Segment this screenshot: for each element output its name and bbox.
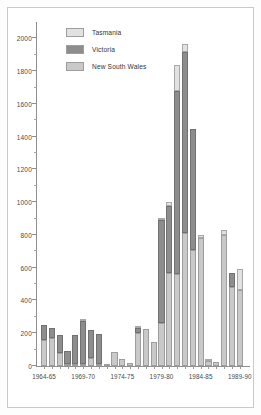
x-tick-label: 1989-90 <box>228 373 252 380</box>
x-tick <box>208 366 209 369</box>
bar-stack[interactable] <box>104 364 110 366</box>
bar-segment-victoria <box>64 351 70 364</box>
bar-segment-victoria <box>57 335 63 353</box>
y-tick-label: 600 <box>21 264 32 271</box>
x-tick <box>130 366 131 369</box>
bar-stack[interactable] <box>57 335 63 366</box>
bar-stack[interactable] <box>111 352 117 366</box>
x-tick-label: 1979-80 <box>150 373 174 380</box>
y-tick-label: 0 <box>28 363 32 370</box>
bar-segment-victoria <box>229 273 235 288</box>
bar-segment-new-south-wales <box>166 273 172 366</box>
x-tick <box>232 366 233 369</box>
bar-segment-new-south-wales <box>111 352 117 366</box>
bar-segment-victoria <box>72 335 78 364</box>
bar-stack[interactable] <box>143 329 149 366</box>
bar-segment-new-south-wales <box>174 274 180 366</box>
bar-segment-new-south-wales <box>41 340 47 366</box>
bar-stack[interactable] <box>127 363 133 366</box>
bar-stack[interactable] <box>64 351 70 366</box>
chart-figure: 0200400600800100012001400160018002000 19… <box>0 0 261 415</box>
bar-stack[interactable] <box>221 230 227 366</box>
bar-segment-new-south-wales <box>57 353 63 366</box>
bar-segment-new-south-wales <box>64 364 70 366</box>
bar-stack[interactable] <box>119 359 125 366</box>
bar-segment-new-south-wales <box>119 359 125 366</box>
bar-stack[interactable] <box>174 65 180 366</box>
y-tick-label: 200 <box>21 330 32 337</box>
bar-segment-new-south-wales <box>221 235 227 366</box>
bar-stack[interactable] <box>88 330 94 366</box>
bar-segment-victoria <box>96 334 102 364</box>
bar-stack[interactable] <box>72 335 78 366</box>
x-tick <box>44 366 45 369</box>
bar-segment-victoria <box>190 129 196 249</box>
bar-segment-tasmania <box>174 65 180 91</box>
legend-item[interactable]: New South Wales <box>66 60 146 73</box>
bar-stack[interactable] <box>41 325 47 366</box>
y-tick-label: 2000 <box>17 35 32 42</box>
x-tick <box>122 366 123 369</box>
bar-stack[interactable] <box>237 269 243 366</box>
y-tick-label: 1600 <box>17 100 32 107</box>
x-tick <box>138 366 139 369</box>
bar-segment-tasmania <box>182 44 188 52</box>
bar-stack[interactable] <box>213 362 219 366</box>
legend-item[interactable]: Victoria <box>66 43 146 56</box>
x-tick <box>83 366 84 369</box>
bar-segment-new-south-wales <box>135 333 141 366</box>
bar-segment-victoria <box>49 328 55 339</box>
bar-segment-new-south-wales <box>205 361 211 366</box>
bar-stack[interactable] <box>190 129 196 366</box>
bar-segment-new-south-wales <box>80 364 86 366</box>
bar-stack[interactable] <box>158 218 164 366</box>
x-tick <box>177 366 178 369</box>
x-tick <box>193 366 194 369</box>
bar-segment-victoria <box>80 321 86 364</box>
bar-segment-new-south-wales <box>143 329 149 366</box>
x-tick-label: 1984-85 <box>189 373 213 380</box>
y-tick-label: 800 <box>21 231 32 238</box>
bar-segment-new-south-wales <box>104 364 110 366</box>
bar-segment-victoria <box>158 220 164 322</box>
legend-item[interactable]: Tasmania <box>66 26 146 39</box>
bar-segment-new-south-wales <box>198 238 204 366</box>
y-tick-label: 1000 <box>17 199 32 206</box>
legend-swatch <box>66 62 84 71</box>
legend-label: New South Wales <box>92 63 146 70</box>
bar-stack[interactable] <box>49 328 55 366</box>
x-tick <box>68 366 69 369</box>
bar-segment-new-south-wales <box>151 342 157 366</box>
x-tick <box>201 366 202 369</box>
bar-stack[interactable] <box>80 319 86 366</box>
bar-segment-new-south-wales <box>49 338 55 366</box>
legend-label: Victoria <box>92 46 115 53</box>
bar-segment-new-south-wales <box>229 287 235 366</box>
y-tick-label: 400 <box>21 297 32 304</box>
x-tick <box>107 366 108 369</box>
bar-segment-new-south-wales <box>88 358 94 366</box>
bar-stack[interactable] <box>182 44 188 366</box>
bar-stack[interactable] <box>166 202 172 366</box>
x-tick <box>162 366 163 369</box>
bar-segment-new-south-wales <box>127 363 133 366</box>
x-tick <box>154 366 155 369</box>
x-tick <box>224 366 225 369</box>
bar-segment-new-south-wales <box>158 323 164 366</box>
bar-segment-new-south-wales <box>213 362 219 366</box>
bar-stack[interactable] <box>205 359 211 366</box>
x-tick <box>146 366 147 369</box>
bar-segment-victoria <box>166 206 172 273</box>
bar-stack[interactable] <box>151 342 157 366</box>
x-tick <box>91 366 92 369</box>
bar-segment-new-south-wales <box>190 250 196 366</box>
bar-stack[interactable] <box>135 326 141 366</box>
bar-stack[interactable] <box>96 334 102 366</box>
y-tick-label: 1800 <box>17 68 32 75</box>
bar-stack[interactable] <box>229 273 235 366</box>
x-tick <box>216 366 217 369</box>
x-tick <box>99 366 100 369</box>
x-tick <box>240 366 241 369</box>
bar-stack[interactable] <box>198 235 204 366</box>
x-tick <box>60 366 61 369</box>
